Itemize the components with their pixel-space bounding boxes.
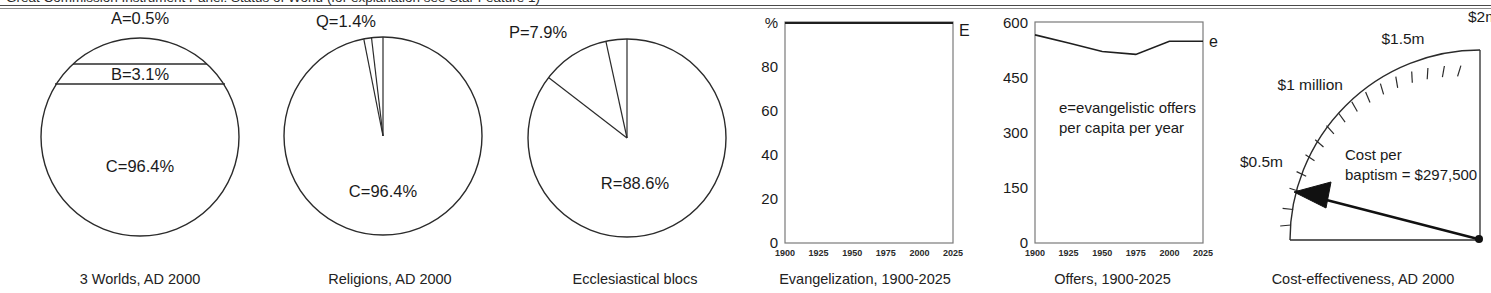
gauge-tick [1283,208,1294,209]
panel-caption: Evangelization, 1900-2025 [740,271,990,287]
y-tick-label: 80 [761,58,778,75]
y-tick-label: 600 [1003,14,1028,31]
gauge-tick [1327,126,1334,134]
gauge-tick [1380,84,1383,95]
y-tick-label: 150 [1003,179,1028,196]
y-tick-label: 40 [761,146,778,163]
panel-cost-effectiveness: $0.5m $1 million $1.5m $2m Cost per bapt… [1235,0,1491,293]
series-label-e: e [1209,33,1218,50]
x-tick-label: 1950 [1092,248,1112,258]
x-tick-label: 1925 [809,248,829,258]
gauge-tick [1352,102,1358,112]
gauge-tick [1366,92,1370,102]
pie-slice-label-a: A=0.5% [111,9,170,27]
x-tick-label: 1975 [1126,248,1146,258]
gauge-scale-label-1: $1 million [1278,76,1343,93]
series-line-e [1035,35,1203,55]
panel-ecclesiastical-blocs: P=7.9% R=88.6% Ecclesiastical blocs [490,0,780,293]
gauge-tick [1427,68,1428,79]
pie-chart-ecclesiastical-blocs: P=7.9% R=88.6% [490,0,780,262]
pie-slice-label-p: P=7.9% [509,23,568,41]
pie-chart-religions: Q=1.4% C=96.4% [250,0,530,262]
pie-slice-label-q: Q=1.4% [316,12,376,30]
x-tick-label: 2000 [1159,248,1179,258]
gauge-scale-label-2: $1.5m [1381,30,1424,47]
pie-slice-label-r: R=88.6% [601,174,670,192]
gauge-tick [1280,225,1291,226]
panel-offers: e e=evangelistic offers per capita per y… [985,0,1240,293]
x-tick-label: 2025 [1193,248,1213,258]
gauge-needle-arrowhead [1294,182,1331,208]
gauge-scale-label-0: $0.5m [1240,153,1283,170]
plot-frame [785,22,953,243]
y-tick-label: % [765,14,778,31]
instrument-panel-figure: Great Commission Instrument Panel: Statu… [0,0,1491,293]
pie-slice-label-c: C=96.4% [106,157,175,175]
gauge-needle [1311,196,1478,239]
panel-religions: Q=1.4% C=96.4% Religions, AD 2000 [250,0,530,293]
gauge-tick [1442,66,1444,77]
gauge-tick [1396,77,1398,88]
y-tick-label: 300 [1003,124,1028,141]
x-tick-label: 1900 [775,248,795,258]
pie-chart-3-worlds: A=0.5% B=3.1% C=96.4% [0,0,280,262]
panel-evangelization: E % 80 60 40 20 0 1900 1925 1950 1975 20… [740,0,990,293]
x-tick-label: 1925 [1059,248,1079,258]
gauge-cost-effectiveness: $0.5m $1 million $1.5m $2m Cost per bapt… [1235,0,1491,262]
gauge-tick [1412,72,1413,83]
chart-annotation-line2: per capita per year [1059,119,1184,136]
x-tick-label: 2025 [943,248,963,258]
gauge-annotation-line1: Cost per [1345,146,1402,163]
panel-caption: Religions, AD 2000 [250,271,530,287]
gauge-pivot [1475,235,1483,243]
panel-3-worlds: A=0.5% B=3.1% C=96.4% 3 Worlds, AD 2000 [0,0,280,293]
pie-slice-label-b: B=3.1% [111,65,170,83]
y-tick-label: 60 [761,102,778,119]
y-tick-label: 20 [761,190,778,207]
series-label-E: E [959,22,970,39]
line-chart-offers: e e=evangelistic offers per capita per y… [985,0,1240,262]
gauge-tick [1458,66,1461,77]
panel-caption: Offers, 1900-2025 [985,271,1240,287]
gauge-scale-label-3: $2m [1468,8,1491,25]
gauge-annotation-line2: baptism = $297,500 [1345,166,1477,183]
x-tick-label: 1975 [876,248,896,258]
line-chart-evangelization: E % 80 60 40 20 0 1900 1925 1950 1975 20… [740,0,990,262]
x-tick-label: 2000 [909,248,929,258]
panel-caption: 3 Worlds, AD 2000 [0,271,280,287]
y-tick-label: 450 [1003,69,1028,86]
panel-caption: Cost-effectiveness, AD 2000 [1235,271,1491,287]
panel-caption: Ecclesiastical blocs [490,271,780,287]
x-tick-label: 1950 [842,248,862,258]
x-tick-label: 1900 [1025,248,1045,258]
chart-annotation-line1: e=evangelistic offers [1059,99,1196,116]
gauge-tick [1339,113,1346,122]
pie-slice-label-c: C=96.4% [349,182,418,200]
